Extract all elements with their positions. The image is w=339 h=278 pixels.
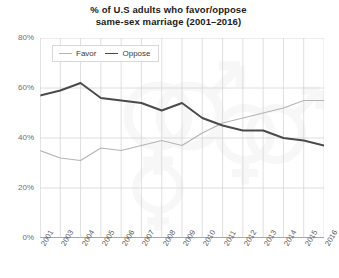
chart-title-line-2: same-sex marriage (2001–2016)	[0, 16, 337, 28]
plot-svg	[40, 38, 324, 238]
legend-swatch-oppose	[105, 53, 118, 54]
chart-title: % of U.S adults who favor/oppose same-se…	[0, 4, 337, 28]
watermark-gender-symbols	[128, 66, 319, 231]
y-axis-tick-0pct: 0%	[0, 234, 34, 242]
y-axis-tick-40pct: 40%	[0, 134, 34, 142]
chart-title-line-1: % of U.S adults who favor/oppose	[0, 4, 337, 16]
x-axis-tick-2016: 2016	[323, 228, 339, 247]
y-axis-tick-80pct: 80%	[0, 34, 34, 42]
legend-swatch-favor	[59, 53, 72, 54]
chart-legend: Favor Oppose	[52, 45, 159, 62]
legend-item-favor[interactable]: Favor	[59, 49, 96, 58]
legend-item-oppose[interactable]: Oppose	[105, 49, 150, 58]
y-axis-tick-20pct: 20%	[0, 184, 34, 192]
legend-label-oppose: Oppose	[122, 49, 150, 58]
plot-area	[40, 38, 324, 238]
legend-label-favor: Favor	[76, 49, 96, 58]
y-axis-tick-60pct: 60%	[0, 84, 34, 92]
